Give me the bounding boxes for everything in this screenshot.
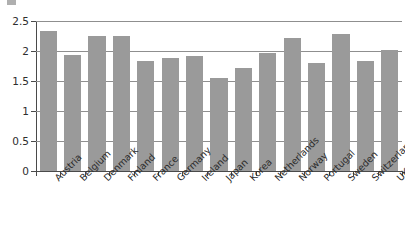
x-axis-label-ireland: Ireland xyxy=(200,176,207,183)
bar-korea xyxy=(235,68,252,171)
x-axis-label-netherlands: Netherlands xyxy=(273,176,280,183)
y-axis-label: 1 xyxy=(22,106,29,117)
y-axis-label: 2.5 xyxy=(12,16,29,27)
y-axis-label: 2 xyxy=(22,46,29,57)
x-axis-label-norway: Norway xyxy=(297,176,304,183)
x-axis-label-uk: UK xyxy=(395,176,402,183)
y-axis-label: 0.5 xyxy=(12,136,29,147)
x-axis-labels-group: AustriaBelgiumDenmarkFinlandFranceGerman… xyxy=(36,176,402,236)
y-axis-label: 1.5 xyxy=(12,76,29,87)
x-axis-label-france: France xyxy=(151,176,158,183)
bar-netherlands xyxy=(259,53,276,171)
x-axis-label-sweden: Sweden xyxy=(346,176,353,183)
x-axis-label-finland: Finland xyxy=(126,176,133,183)
x-axis-label-austria: Austria xyxy=(53,176,60,183)
clipped-top-artifact xyxy=(7,0,16,5)
x-axis-label-switzerland: Switzerland xyxy=(370,176,377,183)
bar-austria xyxy=(40,31,57,171)
y-axis-label: 0 xyxy=(22,166,29,177)
x-axis-label-japan: Japan xyxy=(224,176,231,183)
x-axis-label-belgium: Belgium xyxy=(78,176,85,183)
x-axis-label-korea: Korea xyxy=(248,176,255,183)
x-axis-label-portugal: Portugal xyxy=(322,176,329,183)
x-axis-label-germany: Germany xyxy=(175,176,182,183)
x-axis-label-denmark: Denmark xyxy=(102,176,109,183)
bar-chart: 00.511.522.5 AustriaBelgiumDenmarkFinlan… xyxy=(0,0,405,236)
